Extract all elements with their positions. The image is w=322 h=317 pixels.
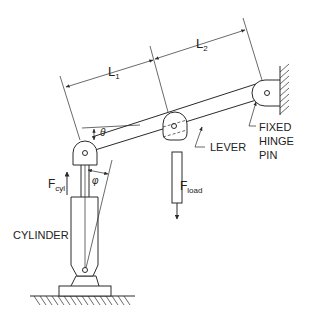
label-phi: φ — [92, 175, 99, 186]
wall — [280, 64, 289, 115]
label-pin: PIN — [259, 149, 277, 161]
dimension-lines — [60, 18, 262, 140]
cylinder-clevis — [73, 141, 97, 165]
label-hinge: HINGE — [259, 135, 294, 147]
label-l2: L2 — [196, 36, 208, 53]
lever-leader — [195, 127, 205, 147]
label-fload: Fload — [180, 179, 202, 195]
label-fcyl: Fcyl — [48, 177, 65, 193]
cylinder-base — [59, 276, 111, 296]
label-fixed: FIXED — [259, 121, 291, 133]
label-lever: LEVER — [210, 141, 246, 153]
ground — [30, 296, 135, 305]
cylinder-body — [71, 197, 98, 276]
theta-indicator — [82, 125, 140, 140]
label-cylinder: CYLINDER — [13, 229, 69, 241]
label-theta: θ — [100, 127, 106, 138]
fixed-leader — [249, 102, 256, 126]
phi-indicator — [88, 170, 108, 174]
label-l1: L1 — [108, 64, 120, 81]
mechanism-diagram: L1 L2 θ φ Fcyl Fload LEVER CYLINDER FIXE… — [0, 0, 322, 317]
